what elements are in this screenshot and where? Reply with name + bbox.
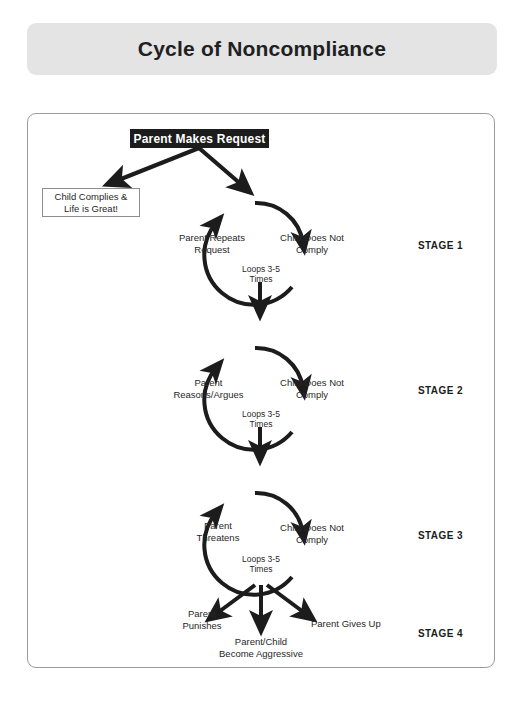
child-complies-line-1: Child Complies & [55, 191, 128, 203]
stage-1-label: STAGE 1 [418, 240, 463, 251]
stage-3-right-node-label: Child Does Not Comply [269, 522, 355, 545]
parent-makes-request-box: Parent Makes Request [130, 129, 269, 148]
page-title: Cycle of Noncompliance [138, 37, 386, 61]
stage-2-left-node-label: Parent Reasons/Argues [161, 377, 256, 400]
stage-4-outcome-punishes: Parent Punishes [171, 608, 233, 631]
parent-makes-request-label: Parent Makes Request [133, 132, 265, 146]
stage-3-label: STAGE 3 [418, 530, 463, 541]
stage-1-loop-caption: Loops 3-5 Times [226, 264, 296, 284]
stage-1-left-node-label: Parent Repeats Request [168, 232, 256, 255]
stage-4-label: STAGE 4 [418, 628, 463, 639]
title-banner: Cycle of Noncompliance [27, 23, 497, 75]
stage-3-left-node-label: Parent Threatens [180, 520, 256, 543]
stage-4-outcome-gives-up: Parent Gives Up [311, 618, 401, 630]
stage-2-label: STAGE 2 [418, 385, 463, 396]
child-complies-line-2: Life is Great! [64, 203, 118, 215]
stage-4-outcome-aggressive: Parent/Child Become Aggressive [199, 636, 323, 659]
child-complies-box: Child Complies & Life is Great! [42, 188, 140, 217]
stage-2-loop-caption: Loops 3-5 Times [226, 409, 296, 429]
stage-3-loop-caption: Loops 3-5 Times [226, 554, 296, 574]
stage-1-right-node-label: Child Does Not Comply [269, 232, 355, 255]
stage-2-right-node-label: Child Does Not Comply [269, 377, 355, 400]
